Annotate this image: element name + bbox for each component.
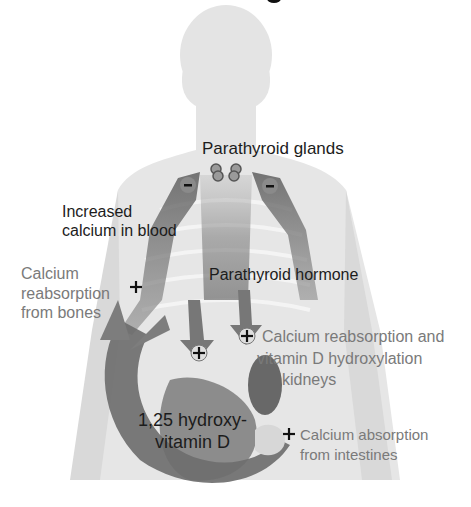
kidney-line-2: vitamin D hydroxylation	[257, 348, 444, 370]
vitamin-d-line-1: 1,25 hydroxy-	[138, 410, 247, 432]
bone-line-1: Calcium	[21, 264, 110, 284]
bone-line-3: from bones	[21, 303, 110, 323]
parathyroid-hormone-label: Parathyroid hormone	[209, 266, 358, 285]
kidney-line-3: kidneys	[282, 369, 444, 391]
increased-calcium-label: Increased calcium in blood	[62, 203, 177, 241]
minus-marker-right	[262, 178, 278, 194]
kidney-line-1: Calcium reabsorption and	[262, 326, 444, 348]
plus-marker-vitd	[191, 345, 207, 361]
kidney-effect-label: Calcium reabsorption and vitamin D hydro…	[262, 326, 444, 391]
minus-marker-left	[180, 177, 196, 193]
increased-calcium-line-2: calcium in blood	[62, 222, 177, 241]
bone-line-2: reabsorption	[21, 284, 110, 304]
plus-marker-kidneys	[239, 328, 255, 344]
increased-calcium-line-1: Increased	[62, 203, 177, 222]
vitamin-d-label: 1,25 hydroxy- vitamin D	[138, 410, 247, 453]
bone-reabsorption-label: Calcium reabsorption from bones	[21, 264, 110, 323]
intestine-line-2: from intestines	[300, 445, 428, 465]
vitamin-d-line-2: vitamin D	[138, 432, 247, 454]
intestine-absorption-label: Calcium absorption from intestines	[300, 425, 428, 464]
calcium-regulation-diagram: Parathyroid glands Increased calcium in …	[0, 0, 471, 507]
intestine-line-1: Calcium absorption	[300, 425, 428, 445]
parathyroid-glands-label: Parathyroid glands	[202, 139, 344, 159]
head-silhouette	[180, 5, 272, 160]
